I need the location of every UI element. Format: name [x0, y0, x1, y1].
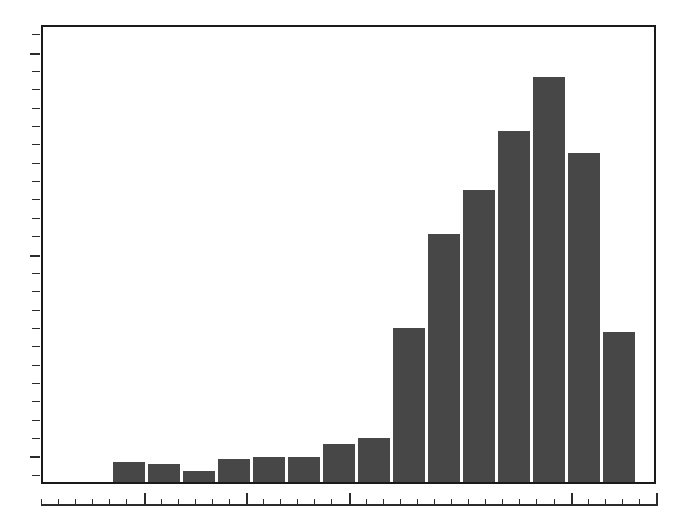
bar-1 — [113, 462, 145, 482]
bar-6 — [288, 457, 320, 482]
bar-9 — [393, 328, 425, 482]
x-tick-minor — [195, 499, 196, 506]
y-tick-minor — [32, 218, 40, 219]
y-tick-minor — [32, 438, 40, 439]
bar-5 — [253, 457, 285, 482]
x-tick-major — [349, 493, 351, 506]
y-tick-minor — [32, 163, 40, 164]
bar-12 — [498, 131, 530, 482]
x-tick-minor — [468, 499, 469, 506]
x-tick-major — [656, 493, 658, 506]
y-tick-minor — [32, 71, 40, 72]
x-tick-minor — [434, 499, 435, 506]
x-axis-ticks — [41, 490, 656, 506]
bar-15 — [603, 332, 635, 482]
bar-8 — [358, 438, 390, 482]
x-tick-minor — [109, 499, 110, 506]
x-tick-minor — [229, 499, 230, 506]
bars-layer — [43, 27, 654, 482]
x-tick-minor — [41, 499, 42, 506]
bar-3 — [183, 471, 215, 482]
y-tick-minor — [32, 383, 40, 384]
y-tick-minor — [32, 310, 40, 311]
bar-14 — [568, 153, 600, 482]
y-tick-minor — [32, 108, 40, 109]
y-tick-minor — [32, 401, 40, 402]
y-tick-minor — [32, 365, 40, 366]
x-tick-major — [571, 493, 573, 506]
y-tick-minor — [32, 126, 40, 127]
x-tick-minor — [314, 499, 315, 506]
x-tick-minor — [92, 499, 93, 506]
x-tick-minor — [536, 499, 537, 506]
x-tick-major — [144, 493, 146, 506]
x-tick-minor — [297, 499, 298, 506]
y-tick-major — [30, 53, 40, 55]
bar-2 — [148, 464, 180, 482]
x-tick-minor — [451, 499, 452, 506]
bar-7 — [323, 444, 355, 482]
y-tick-minor — [32, 346, 40, 347]
bar-11 — [463, 190, 495, 482]
y-tick-minor — [32, 420, 40, 421]
plot-area — [41, 25, 656, 484]
x-tick-minor — [75, 499, 76, 506]
x-tick-minor — [554, 499, 555, 506]
x-tick-minor — [622, 499, 623, 506]
x-tick-minor — [519, 499, 520, 506]
bar-4 — [218, 459, 250, 482]
x-tick-minor — [502, 499, 503, 506]
x-tick-minor — [485, 499, 486, 506]
x-tick-minor — [605, 499, 606, 506]
y-axis-ticks — [28, 25, 40, 484]
x-tick-minor — [400, 499, 401, 506]
y-tick-minor — [32, 34, 40, 35]
y-tick-major — [30, 456, 40, 458]
x-tick-minor — [58, 499, 59, 506]
x-tick-minor — [263, 499, 264, 506]
x-tick-minor — [383, 499, 384, 506]
x-tick-minor — [417, 499, 418, 506]
y-tick-minor — [32, 89, 40, 90]
x-tick-minor — [212, 499, 213, 506]
y-tick-minor — [32, 475, 40, 476]
x-tick-minor — [588, 499, 589, 506]
y-tick-minor — [32, 291, 40, 292]
x-tick-minor — [331, 499, 332, 506]
bar-10 — [428, 234, 460, 482]
x-tick-minor — [639, 499, 640, 506]
x-tick-minor — [178, 499, 179, 506]
y-tick-minor — [32, 328, 40, 329]
y-tick-minor — [32, 144, 40, 145]
bar-chart-figure — [0, 0, 679, 526]
y-tick-major — [30, 255, 40, 257]
x-tick-minor — [366, 499, 367, 506]
bar-13 — [533, 77, 565, 482]
x-tick-minor — [126, 499, 127, 506]
y-tick-minor — [32, 273, 40, 274]
x-tick-minor — [280, 499, 281, 506]
x-tick-minor — [161, 499, 162, 506]
x-tick-major — [246, 493, 248, 506]
y-tick-minor — [32, 181, 40, 182]
y-tick-minor — [32, 199, 40, 200]
y-tick-minor — [32, 236, 40, 237]
